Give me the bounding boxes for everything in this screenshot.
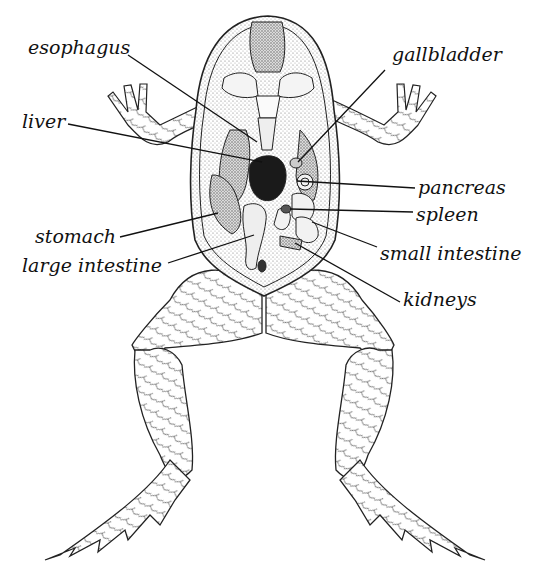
label-esophagus: esophagus <box>28 38 130 57</box>
label-large-intestine: large intestine <box>22 256 162 275</box>
frog-anatomy-diagram: esophagus liver stomach large intestine … <box>0 0 545 585</box>
label-spleen: spleen <box>416 205 479 224</box>
label-pancreas: pancreas <box>418 178 506 197</box>
label-stomach: stomach <box>35 227 116 246</box>
label-kidneys: kidneys <box>403 290 477 309</box>
label-small-intestine: small intestine <box>380 244 521 263</box>
label-gallbladder: gallbladder <box>392 45 502 64</box>
label-liver: liver <box>22 112 65 131</box>
hind-legs <box>45 270 485 560</box>
